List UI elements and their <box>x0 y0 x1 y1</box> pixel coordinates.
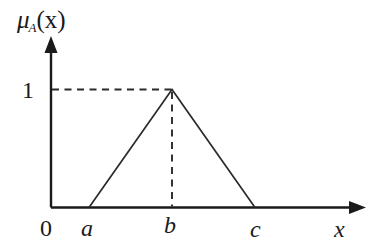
y-axis-label-argument: (x) <box>37 6 66 33</box>
figure-container: μA(x) 1 0 a b c x <box>0 0 381 250</box>
x-tick-label-c: c <box>250 217 261 241</box>
origin-label: 0 <box>40 216 52 240</box>
y-axis-label-subscript: A <box>29 20 37 35</box>
y-axis-label-mu: μ <box>17 6 30 33</box>
x-tick-label-a: a <box>81 216 93 240</box>
y-axis-arrowhead-icon <box>45 36 58 53</box>
x-tick-label-b: b <box>164 213 176 237</box>
y-axis-label: μA(x) <box>17 7 66 34</box>
x-axis-label: x <box>334 217 345 241</box>
triangular-membership-function-plot <box>0 0 381 250</box>
y-tick-label-1: 1 <box>22 78 34 102</box>
x-axis-arrowhead-icon <box>349 201 366 214</box>
